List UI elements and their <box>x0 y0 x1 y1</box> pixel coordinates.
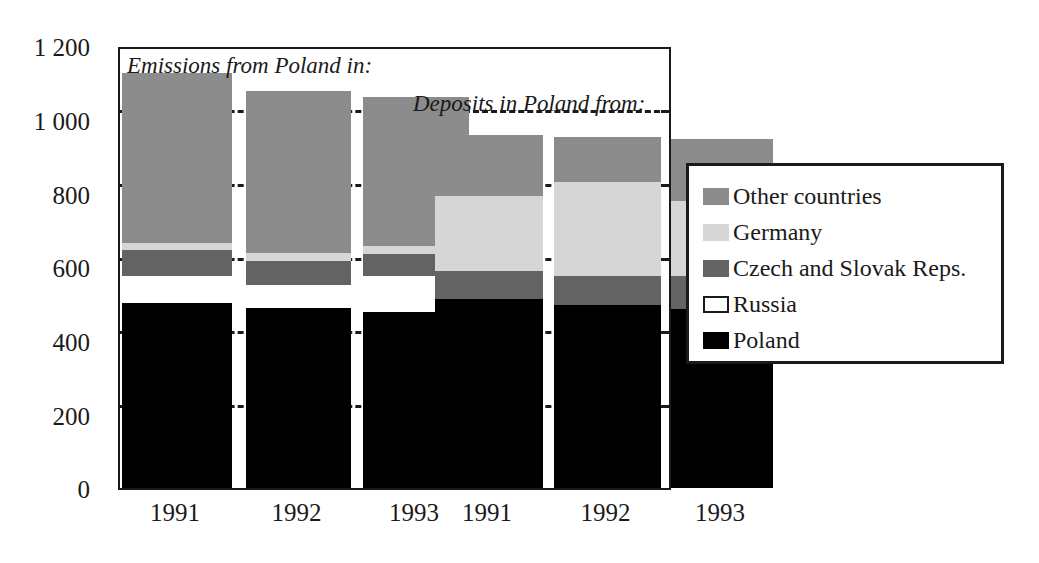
segment-germany <box>246 253 351 262</box>
segment-other-countries <box>246 91 351 253</box>
legend-swatch-other-countries-icon <box>703 188 729 205</box>
legend: Other countries Germany Czech and Slovak… <box>686 163 1004 364</box>
segment-czech-and-slovak-reps <box>435 271 543 299</box>
y-tick-label-200: 200 <box>0 404 90 429</box>
y-tick-label-0: 0 <box>0 477 90 502</box>
legend-swatch-russia-icon <box>703 296 729 313</box>
legend-label: Germany <box>733 220 822 244</box>
legend-item-germany[interactable]: Germany <box>703 214 1001 250</box>
segment-other-countries <box>554 137 661 181</box>
y-tick-label-1000: 1 000 <box>0 109 90 134</box>
y-tick-label-400: 400 <box>0 330 90 355</box>
segment-germany <box>554 182 661 276</box>
legend-swatch-czech-and-slovak-reps-icon <box>703 260 729 277</box>
chart-canvas: 1 200 1 000 800 600 400 200 0 <box>0 0 1039 563</box>
segment-poland <box>246 308 351 488</box>
x-tick-label-deposits-1992: 1992 <box>552 500 659 525</box>
segment-czech-and-slovak-reps <box>554 276 661 306</box>
bar-deposits-1992[interactable] <box>554 137 661 488</box>
legend-swatch-poland-icon <box>703 332 729 349</box>
segment-poland <box>554 305 661 488</box>
legend-label: Other countries <box>733 184 882 208</box>
x-tick-label-deposits-1993: 1993 <box>669 500 771 525</box>
bar-emissions-1992[interactable] <box>246 91 351 488</box>
segment-czech-and-slovak-reps <box>246 261 351 285</box>
plot-area: Emissions from Poland in: Deposits in Po… <box>118 47 671 490</box>
x-tick-label-deposits-1991: 1991 <box>433 500 541 525</box>
y-tick-label-800: 800 <box>0 183 90 208</box>
segment-poland <box>122 303 232 488</box>
segment-russia <box>246 285 351 308</box>
legend-label: Russia <box>733 292 797 316</box>
bar-emissions-1991[interactable] <box>122 73 232 488</box>
segment-other-countries <box>122 73 232 243</box>
legend-item-russia[interactable]: Russia <box>703 286 1001 322</box>
segment-other-countries <box>435 135 543 195</box>
x-tick-label-emissions-1991: 1991 <box>120 500 230 525</box>
legend-item-poland[interactable]: Poland <box>703 322 1001 358</box>
segment-czech-and-slovak-reps <box>122 250 232 276</box>
y-tick-label-600: 600 <box>0 256 90 281</box>
segment-poland <box>435 299 543 488</box>
legend-item-other-countries[interactable]: Other countries <box>703 178 1001 214</box>
legend-label: Czech and Slovak Reps. <box>733 256 966 280</box>
legend-swatch-germany-icon <box>703 224 729 241</box>
y-tick-label-1200: 1 200 <box>0 35 90 60</box>
legend-item-czech-and-slovak-reps[interactable]: Czech and Slovak Reps. <box>703 250 1001 286</box>
legend-label: Poland <box>733 328 800 352</box>
segment-germany <box>435 196 543 272</box>
x-tick-label-emissions-1992: 1992 <box>244 500 349 525</box>
deposits-group-label: Deposits in Poland from: <box>413 92 645 115</box>
emissions-group-label: Emissions from Poland in: <box>127 54 372 77</box>
bar-deposits-1991[interactable] <box>435 135 543 488</box>
segment-germany <box>122 243 232 250</box>
segment-russia <box>122 276 232 304</box>
